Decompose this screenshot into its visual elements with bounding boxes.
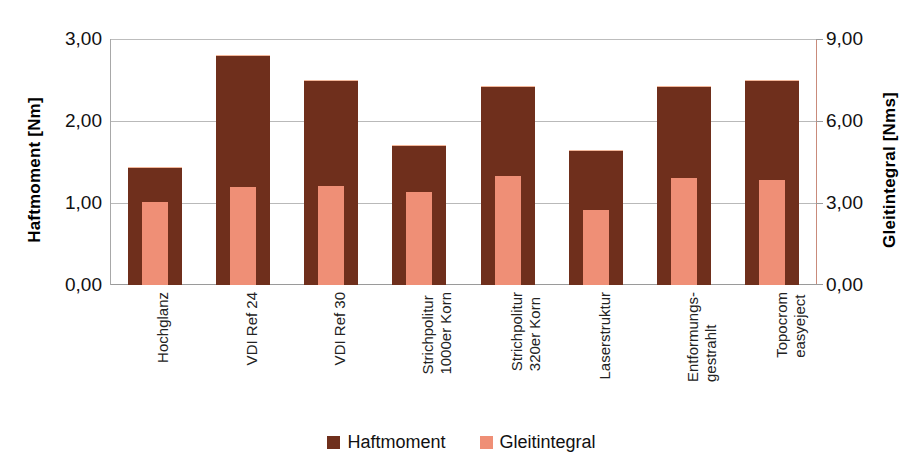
bar-gleitintegral[interactable] — [318, 186, 344, 285]
x-axis-label-cell: VDI Ref 30 — [287, 292, 375, 422]
y-right-tick-0: 0,00 — [826, 274, 886, 296]
legend-swatch-icon-haftmoment — [327, 436, 340, 449]
x-axis-label: Laserstruktur — [596, 292, 614, 380]
bar-chart: Haftmoment [Nm] Gleitintegral [Nms] 3,00… — [0, 0, 923, 475]
x-axis-label: Hochglanz — [154, 292, 172, 363]
bars-layer — [111, 39, 816, 285]
x-axis-label: Topocromeasyeject — [773, 292, 809, 358]
x-axis-label-cell: Topocromeasyeject — [729, 292, 817, 422]
bar-group — [464, 39, 552, 285]
legend-item-gleitintegral[interactable]: Gleitintegral — [480, 432, 596, 453]
y-axis-right-ticks: 9,00 6,00 3,00 0,00 — [826, 0, 886, 475]
x-axis-label: Entformungs-gestrahlt — [684, 292, 720, 382]
x-axis-label: VDI Ref 30 — [331, 292, 349, 365]
y-left-tick-1: 1,00 — [42, 192, 102, 214]
bar-group — [728, 39, 816, 285]
x-axis-label-cell: Hochglanz — [110, 292, 198, 422]
bar-gleitintegral[interactable] — [583, 210, 609, 285]
y-left-tick-0: 0,00 — [42, 274, 102, 296]
bar-gleitintegral[interactable] — [759, 180, 785, 285]
x-axis-label-cell: Entformungs-gestrahlt — [640, 292, 728, 422]
bar-group — [199, 39, 287, 285]
y-axis-left-ticks: 3,00 2,00 1,00 0,00 — [42, 0, 102, 475]
tickmark-right-6 — [816, 121, 823, 122]
y-right-tick-9: 9,00 — [826, 28, 886, 50]
legend-swatch-icon-gleitintegral — [480, 436, 493, 449]
legend-item-haftmoment[interactable]: Haftmoment — [327, 432, 445, 453]
bar-group — [552, 39, 640, 285]
x-axis-category-labels: HochglanzVDI Ref 24VDI Ref 30Strichpolit… — [110, 292, 817, 422]
y-right-tick-6: 6,00 — [826, 110, 886, 132]
y-right-tick-3: 3,00 — [826, 192, 886, 214]
tickmark-right-0 — [816, 284, 823, 285]
x-axis-label-cell: Strichpolitur1000er Korn — [375, 292, 463, 422]
legend-label-gleitintegral: Gleitintegral — [500, 432, 596, 453]
tickmark-right-9 — [816, 39, 823, 40]
bar-group — [287, 39, 375, 285]
x-axis-label: Strichpolitur1000er Korn — [419, 292, 455, 375]
bar-group — [640, 39, 728, 285]
x-axis-label: VDI Ref 24 — [243, 292, 261, 365]
bar-group — [111, 39, 199, 285]
plot-area — [110, 39, 817, 285]
bar-gleitintegral[interactable] — [230, 187, 256, 285]
x-axis-label: Strichpolitur320er Korn — [508, 292, 544, 371]
tickmark-right-3 — [816, 203, 823, 204]
bar-group — [375, 39, 463, 285]
bar-gleitintegral[interactable] — [406, 192, 432, 285]
x-axis-label-cell: Strichpolitur320er Korn — [464, 292, 552, 422]
bar-gleitintegral[interactable] — [142, 202, 168, 285]
x-axis-label-cell: Laserstruktur — [552, 292, 640, 422]
chart-legend: Haftmoment Gleitintegral — [0, 432, 923, 453]
bar-gleitintegral[interactable] — [671, 178, 697, 285]
y-left-tick-2: 2,00 — [42, 110, 102, 132]
bar-gleitintegral[interactable] — [495, 176, 521, 285]
legend-label-haftmoment: Haftmoment — [347, 432, 445, 453]
x-axis-label-cell: VDI Ref 24 — [198, 292, 286, 422]
y-left-tick-3: 3,00 — [42, 28, 102, 50]
